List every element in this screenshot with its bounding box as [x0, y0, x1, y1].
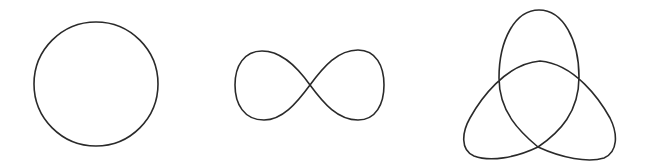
infinity-shape: [235, 50, 384, 120]
trefoil-shape: [464, 10, 616, 160]
diagram-canvas: [0, 0, 647, 166]
circle-shape: [34, 22, 158, 146]
